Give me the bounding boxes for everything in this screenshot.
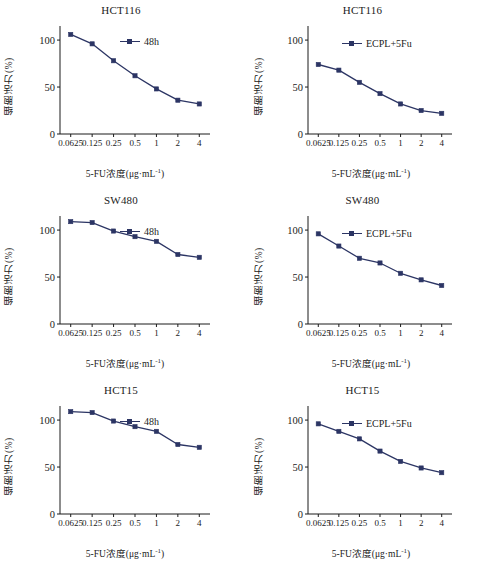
data-point-marker — [378, 92, 382, 96]
data-point-marker — [154, 87, 158, 91]
x-axis-tick-label: 0.5 — [129, 328, 141, 338]
data-point-marker — [111, 419, 115, 423]
data-point-marker — [357, 80, 361, 84]
data-point-marker — [316, 422, 320, 426]
x-axis-tick-label: 0.0625 — [58, 518, 83, 528]
data-point-marker — [69, 220, 73, 224]
x-axis-label-paren: ) — [161, 549, 164, 559]
y-axis-label: 细胞活力(%) — [252, 224, 266, 328]
data-point-marker — [440, 111, 444, 115]
chart-svg: 0501000.06250.1250.250.5124 — [286, 22, 456, 150]
data-point-marker — [154, 239, 158, 243]
y-axis-label: 细胞活力(%) — [252, 34, 266, 138]
data-point-marker — [337, 68, 341, 72]
chart-panel: HCT116细胞活力(%)5-FU浓度(μg·mL-1)48h0501000.0… — [0, 0, 242, 190]
data-point-marker — [337, 244, 341, 248]
x-axis-label: 5-FU浓度(μg·mL-1) — [278, 356, 464, 370]
x-axis-tick-label: 0.25 — [352, 518, 368, 528]
x-axis-label: 5-FU浓度(μg·mL-1) — [278, 166, 464, 180]
x-axis-tick-label: 1 — [154, 138, 159, 148]
data-point-marker — [419, 108, 423, 112]
plot-area: 0501000.06250.1250.250.5124 — [38, 212, 214, 340]
y-axis-tick-label: 50 — [45, 82, 56, 93]
data-point-marker — [133, 235, 137, 239]
panel-title: HCT15 — [0, 384, 266, 396]
x-axis-label: 5-FU浓度(μg·mL-1) — [30, 166, 220, 180]
y-axis-tick-label: 0 — [50, 319, 55, 330]
x-axis-tick-label: 1 — [154, 518, 159, 528]
y-axis-tick-label: 100 — [39, 415, 55, 426]
data-point-marker — [316, 232, 320, 236]
data-point-marker — [176, 252, 180, 256]
data-point-marker — [176, 442, 180, 446]
x-axis-tick-label: 0.25 — [352, 138, 368, 148]
chart-svg: 0501000.06250.1250.250.5124 — [38, 402, 214, 530]
data-point-marker — [440, 471, 444, 475]
plot-area: 0501000.06250.1250.250.5124 — [286, 22, 456, 150]
data-point-marker — [440, 283, 444, 287]
chart-svg: 0501000.06250.1250.250.5124 — [38, 212, 214, 340]
x-axis-tick-label: 0.25 — [106, 138, 122, 148]
x-axis-label: 5-FU浓度(μg·mL-1) — [278, 546, 464, 560]
data-point-marker — [337, 429, 341, 433]
x-axis-tick-label: 4 — [439, 518, 444, 528]
x-axis-tick-label: 0.5 — [374, 328, 386, 338]
data-point-marker — [398, 271, 402, 275]
y-axis-tick-label: 50 — [293, 462, 304, 473]
data-point-marker — [197, 255, 201, 259]
plot-area: 0501000.06250.1250.250.5124 — [286, 402, 456, 530]
x-axis-tick-label: 0.5 — [374, 138, 386, 148]
series-line — [71, 412, 200, 448]
x-axis-tick-label: 0.25 — [352, 328, 368, 338]
data-point-marker — [398, 102, 402, 106]
y-axis-tick-label: 100 — [287, 225, 303, 236]
x-axis-tick-label: 0.5 — [129, 518, 141, 528]
data-point-marker — [111, 229, 115, 233]
x-axis-tick-label: 0.0625 — [306, 138, 331, 148]
x-axis-tick-label: 0.125 — [329, 328, 350, 338]
x-axis-tick-label: 0.0625 — [306, 328, 331, 338]
x-axis-tick-label: 0.125 — [82, 138, 103, 148]
chart-panel: HCT15细胞活力(%)5-FU浓度(μg·mL-1)48h0501000.06… — [0, 380, 242, 563]
plot-area: 0501000.06250.1250.250.5124 — [286, 212, 456, 340]
series-line — [71, 222, 200, 258]
x-axis-tick-label: 1 — [398, 518, 403, 528]
y-axis-tick-label: 50 — [293, 272, 304, 283]
x-axis-label-text: 5-FU浓度(μg·mL — [332, 169, 401, 179]
data-point-marker — [176, 98, 180, 102]
data-point-marker — [69, 410, 73, 414]
y-axis-tick-label: 0 — [298, 319, 303, 330]
chart-panel: HCT116细胞活力(%)5-FU浓度(μg·mL-1)ECPL+5Fu0501… — [242, 0, 483, 190]
panel-title: HCT15 — [242, 384, 483, 396]
figure-cell-viability-panels: HCT116细胞活力(%)5-FU浓度(μg·mL-1)48h0501000.0… — [0, 0, 483, 563]
x-axis-label-text: 5-FU浓度(μg·mL — [332, 549, 401, 559]
x-axis-label-paren: ) — [407, 359, 410, 369]
x-axis-label-paren: ) — [407, 549, 410, 559]
y-axis-label: 细胞活力(%) — [2, 224, 16, 328]
y-axis-tick-label: 100 — [39, 225, 55, 236]
x-axis-label-paren: ) — [161, 359, 164, 369]
x-axis-tick-label: 0.0625 — [58, 138, 83, 148]
y-axis-tick-label: 0 — [50, 509, 55, 520]
x-axis-tick-label: 4 — [197, 328, 202, 338]
y-axis-tick-label: 100 — [287, 35, 303, 46]
panel-title: SW480 — [0, 194, 266, 206]
x-axis-tick-label: 0.25 — [106, 328, 122, 338]
x-axis-tick-label: 0.0625 — [58, 328, 83, 338]
x-axis-tick-label: 0.0625 — [306, 518, 331, 528]
panel-title: HCT116 — [0, 4, 266, 16]
y-axis-tick-label: 0 — [50, 129, 55, 140]
y-axis-label: 细胞活力(%) — [2, 34, 16, 138]
chart-panel: HCT15细胞活力(%)5-FU浓度(μg·mL-1)ECPL+5Fu05010… — [242, 380, 483, 563]
x-axis-label-text: 5-FU浓度(μg·mL — [86, 169, 155, 179]
data-point-marker — [357, 256, 361, 260]
y-axis-tick-label: 100 — [39, 35, 55, 46]
data-point-marker — [419, 466, 423, 470]
panel-title: HCT116 — [242, 4, 483, 16]
x-axis-tick-label: 0.125 — [329, 138, 350, 148]
data-point-marker — [378, 261, 382, 265]
data-point-marker — [316, 62, 320, 66]
x-axis-tick-label: 2 — [419, 138, 424, 148]
x-axis-label-paren: ) — [407, 169, 410, 179]
panel-title: SW480 — [242, 194, 483, 206]
